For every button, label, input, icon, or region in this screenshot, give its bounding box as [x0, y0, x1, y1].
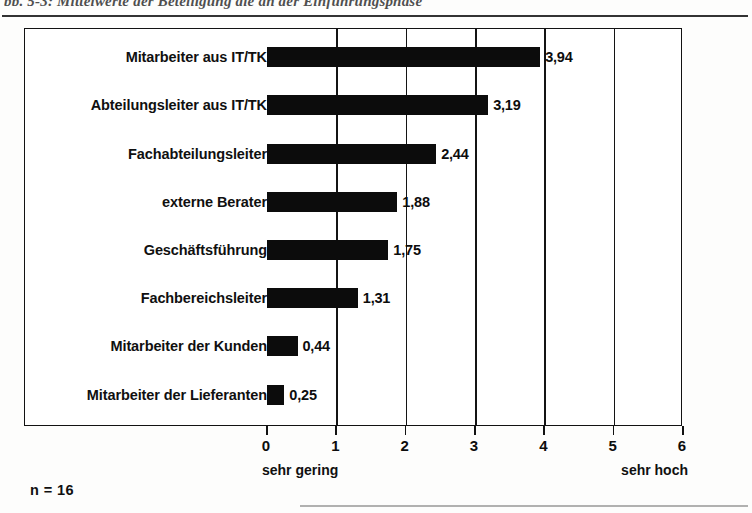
bar: [267, 47, 540, 67]
x-tick-0: [266, 426, 268, 435]
chart-plot-frame: Mitarbeiter aus IT/TK3,94Abteilungsleite…: [24, 28, 682, 426]
x-axis-tick-marks: [24, 426, 682, 436]
scale-high-label: sehr hoch: [621, 462, 688, 478]
x-tick-label: 2: [400, 437, 408, 454]
horizontal-rule-bottom: [300, 505, 748, 507]
bar: [267, 144, 436, 164]
category-label: Fachabteilungsleiter: [128, 146, 267, 162]
x-tick-1: [335, 426, 337, 435]
bar-row: externe Berater1,88: [25, 180, 681, 225]
x-tick-label: 5: [608, 437, 616, 454]
bar-value-label: 3,94: [545, 49, 572, 65]
bar: [267, 95, 488, 115]
category-label: Mitarbeiter der Kunden: [110, 338, 267, 354]
bar-rows-layer: Mitarbeiter aus IT/TK3,94Abteilungsleite…: [25, 29, 681, 425]
bar-row: Fachbereichsleiter1,31: [25, 276, 681, 321]
bar-row: Mitarbeiter aus IT/TK3,94: [25, 35, 681, 80]
bar-row: Geschäftsführung1,75: [25, 228, 681, 273]
chart-page: bb. 5-3: Mittelwerte der Beteiligung die…: [0, 0, 752, 513]
bar-value-label: 2,44: [441, 146, 468, 162]
category-label: externe Berater: [162, 194, 267, 210]
x-tick-label: 1: [331, 437, 339, 454]
horizontal-rule-top: [2, 15, 748, 17]
bar-row: Abteilungsleiter aus IT/TK3,19: [25, 83, 681, 128]
x-tick-label: 0: [262, 437, 270, 454]
x-tick-4: [543, 426, 545, 435]
scale-low-label: sehr gering: [262, 462, 338, 478]
category-label: Mitarbeiter der Lieferanten: [87, 387, 267, 403]
x-tick-label: 6: [678, 437, 686, 454]
bar-value-label: 0,44: [303, 338, 330, 354]
x-tick-label: 3: [470, 437, 478, 454]
bar: [267, 240, 388, 260]
category-label: Fachbereichsleiter: [141, 290, 267, 306]
figure-caption-strip: bb. 5-3: Mittelwerte der Beteiligung die…: [0, 0, 752, 14]
bar: [267, 288, 358, 308]
figure-caption-text: bb. 5-3: Mittelwerte der Beteiligung die…: [4, 0, 422, 10]
x-tick-3: [474, 426, 476, 435]
bar: [267, 336, 298, 356]
bar-value-label: 3,19: [493, 97, 520, 113]
x-tick-2: [405, 426, 407, 435]
bar-row: Fachabteilungsleiter2,44: [25, 131, 681, 176]
category-label: Geschäftsführung: [144, 242, 267, 258]
bar-row: Mitarbeiter der Kunden0,44: [25, 324, 681, 369]
bar-value-label: 1,31: [363, 290, 390, 306]
bar-value-label: 0,25: [289, 387, 316, 403]
bar: [267, 192, 397, 212]
x-axis-tick-labels: 0123456: [24, 437, 682, 457]
category-label: Abteilungsleiter aus IT/TK: [91, 97, 267, 113]
category-label: Mitarbeiter aus IT/TK: [126, 49, 267, 65]
bar: [267, 385, 284, 405]
bar-row: Mitarbeiter der Lieferanten0,25: [25, 372, 681, 417]
sample-size-note: n = 16: [30, 482, 74, 498]
bar-value-label: 1,75: [393, 242, 420, 258]
x-tick-label: 4: [539, 437, 547, 454]
x-tick-5: [613, 426, 615, 435]
x-tick-6: [682, 426, 684, 435]
bar-value-label: 1,88: [402, 194, 429, 210]
